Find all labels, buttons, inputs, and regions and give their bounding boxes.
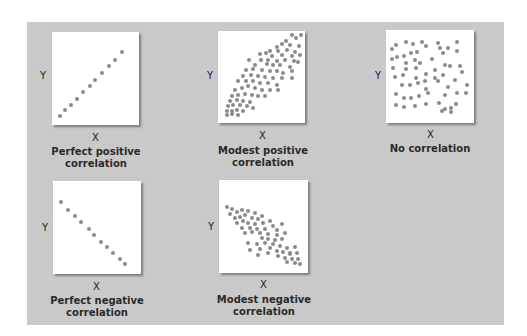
data-point: [244, 79, 248, 83]
data-point: [107, 64, 111, 68]
data-point: [235, 108, 239, 112]
data-point: [449, 110, 453, 114]
data-point: [455, 91, 459, 95]
scatter-plot-perfect-negative: [53, 181, 141, 274]
data-point: [411, 42, 415, 46]
data-point: [240, 86, 244, 90]
data-point: [415, 50, 419, 54]
scatter-plot-modest-positive: [218, 31, 305, 123]
data-point: [275, 83, 279, 87]
data-point: [424, 102, 428, 106]
data-point: [240, 208, 244, 212]
data-point: [268, 49, 272, 53]
data-point: [268, 88, 272, 92]
data-point: [235, 221, 239, 225]
data-point: [295, 251, 299, 255]
data-point: [253, 222, 257, 226]
data-point: [263, 227, 267, 231]
caption-modest-positive: Modest positive correlation: [198, 145, 328, 169]
data-point: [290, 69, 294, 73]
data-point: [100, 71, 104, 75]
data-point: [455, 40, 459, 44]
data-point: [436, 79, 440, 83]
y-axis-label: Y: [40, 71, 46, 81]
data-point: [235, 210, 239, 214]
data-point: [417, 94, 421, 98]
data-point: [437, 101, 441, 105]
data-point: [93, 78, 97, 82]
data-point: [413, 58, 417, 62]
data-point: [245, 104, 249, 108]
data-point: [430, 57, 434, 61]
data-point: [246, 209, 250, 213]
data-point: [123, 262, 127, 266]
data-point: [275, 249, 279, 253]
data-point: [288, 252, 292, 256]
data-point: [81, 90, 85, 94]
data-point: [465, 83, 469, 87]
data-point: [424, 44, 428, 48]
data-point: [265, 62, 269, 66]
data-point: [275, 228, 279, 232]
data-point: [259, 58, 263, 62]
data-point: [238, 103, 242, 107]
data-point: [418, 61, 422, 65]
data-point: [280, 222, 284, 226]
data-point: [276, 254, 280, 258]
data-point: [246, 241, 250, 245]
caption-modest-negative: Modest negative correlation: [199, 294, 329, 318]
data-point: [436, 41, 440, 45]
data-point: [441, 73, 445, 77]
x-axis-label: X: [93, 282, 100, 292]
data-point: [454, 102, 458, 106]
data-point: [231, 103, 235, 107]
data-point: [66, 208, 70, 212]
data-point: [276, 88, 280, 92]
data-point: [266, 232, 270, 236]
data-point: [409, 51, 413, 55]
caption-no-correlation: No correlation: [365, 143, 495, 155]
data-point: [230, 112, 234, 116]
data-point: [241, 99, 245, 103]
data-point: [394, 43, 398, 47]
data-point: [402, 54, 406, 58]
data-point: [260, 68, 264, 72]
data-point: [285, 260, 289, 264]
data-point: [230, 94, 234, 98]
data-point: [426, 91, 430, 95]
scatter-plot-perfect-positive: [52, 32, 139, 125]
data-point: [285, 48, 289, 52]
data-point: [298, 53, 302, 57]
data-point: [294, 36, 298, 40]
x-axis-label: X: [92, 133, 99, 143]
data-point: [441, 51, 445, 55]
data-point: [113, 58, 117, 62]
data-point: [271, 242, 275, 246]
data-point: [92, 233, 96, 237]
data-point: [414, 66, 418, 70]
data-point: [258, 231, 262, 235]
caption-line: Modest positive: [198, 145, 328, 157]
caption-line: No correlation: [365, 143, 495, 155]
data-point: [87, 227, 91, 231]
data-point: [404, 67, 408, 71]
data-point: [260, 236, 264, 240]
data-point: [241, 219, 245, 223]
data-point: [443, 93, 447, 97]
data-point: [105, 245, 109, 249]
data-point: [261, 221, 265, 225]
data-point: [281, 250, 285, 254]
data-point: [235, 98, 239, 102]
data-point: [293, 245, 297, 249]
data-point: [263, 94, 267, 98]
data-point: [278, 244, 282, 248]
data-point: [280, 42, 284, 46]
data-point: [266, 237, 270, 241]
caption-perfect-positive: Perfect positive correlation: [31, 146, 161, 170]
data-point: [280, 76, 284, 80]
data-point: [111, 251, 115, 255]
data-point: [260, 88, 264, 92]
data-point: [225, 113, 229, 117]
data-point: [400, 83, 404, 87]
caption-line: correlation: [199, 306, 329, 318]
